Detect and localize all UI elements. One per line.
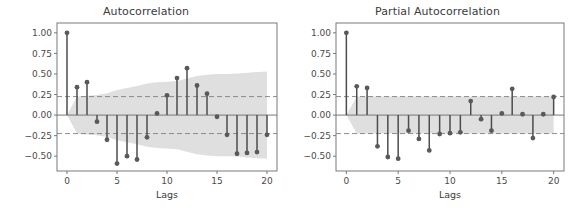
data-point-marker bbox=[215, 114, 220, 119]
y-tick-label: 0.00 bbox=[311, 110, 331, 120]
y-tick-label: −0.25 bbox=[24, 131, 52, 141]
data-point-marker bbox=[448, 131, 453, 136]
x-tick-label: 20 bbox=[261, 176, 273, 186]
x-tick-label: 10 bbox=[444, 176, 456, 186]
data-point-marker bbox=[499, 111, 504, 116]
x-tick-label: 5 bbox=[395, 176, 401, 186]
data-point-marker bbox=[375, 144, 380, 149]
data-point-marker bbox=[185, 66, 190, 71]
y-tick-label: −0.25 bbox=[303, 131, 331, 141]
autocorrelation-plot: −0.50−0.250.000.250.500.751.0005101520La… bbox=[0, 0, 292, 216]
data-point-marker bbox=[135, 157, 140, 162]
y-tick-label: 0.50 bbox=[32, 69, 52, 79]
data-point-marker bbox=[95, 119, 100, 124]
data-point-marker bbox=[541, 112, 546, 117]
data-point-marker bbox=[175, 76, 180, 81]
data-point-marker bbox=[551, 95, 556, 100]
data-point-marker bbox=[125, 154, 130, 159]
data-point-marker bbox=[265, 132, 270, 137]
data-point-marker bbox=[385, 155, 390, 160]
y-tick-label: 1.00 bbox=[311, 28, 331, 38]
x-tick-label: 0 bbox=[343, 176, 349, 186]
x-tick-label: 20 bbox=[548, 176, 560, 186]
data-point-marker bbox=[165, 93, 170, 98]
data-point-marker bbox=[468, 99, 473, 104]
y-tick-label: 0.75 bbox=[32, 49, 52, 59]
data-point-marker bbox=[344, 30, 349, 35]
data-point-marker bbox=[531, 136, 536, 141]
data-point-marker bbox=[115, 161, 120, 166]
x-axis-title: Lags bbox=[439, 189, 461, 200]
data-point-marker bbox=[245, 151, 250, 156]
data-point-marker bbox=[225, 132, 230, 137]
data-point-marker bbox=[417, 137, 422, 142]
data-point-marker bbox=[145, 135, 150, 140]
y-tick-label: 0.50 bbox=[311, 69, 331, 79]
y-tick-label: 0.00 bbox=[32, 110, 52, 120]
data-point-marker bbox=[205, 91, 210, 96]
data-point-marker bbox=[427, 148, 432, 153]
partial-autocorrelation-panel: Partial Autocorrelation −0.50−0.250.000.… bbox=[292, 0, 583, 216]
partial-autocorrelation-plot: −0.50−0.250.000.250.500.751.0005101520La… bbox=[292, 0, 583, 216]
y-tick-label: 0.25 bbox=[311, 90, 331, 100]
acf-pacf-figure: Autocorrelation −0.50−0.250.000.250.500.… bbox=[0, 0, 583, 216]
x-tick-label: 5 bbox=[114, 176, 120, 186]
data-point-marker bbox=[85, 80, 90, 85]
data-point-marker bbox=[365, 86, 370, 91]
data-point-marker bbox=[354, 84, 359, 89]
data-point-marker bbox=[235, 151, 240, 156]
data-point-marker bbox=[65, 30, 70, 35]
y-tick-label: −0.50 bbox=[24, 151, 52, 161]
x-tick-label: 0 bbox=[64, 176, 70, 186]
x-tick-label: 10 bbox=[161, 176, 173, 186]
data-point-marker bbox=[195, 83, 200, 88]
data-point-marker bbox=[520, 112, 525, 117]
y-tick-label: −0.50 bbox=[303, 151, 331, 161]
data-point-marker bbox=[489, 128, 494, 133]
data-point-marker bbox=[105, 137, 110, 142]
autocorrelation-panel: Autocorrelation −0.50−0.250.000.250.500.… bbox=[0, 0, 292, 216]
data-point-marker bbox=[255, 150, 260, 155]
data-point-marker bbox=[75, 85, 80, 90]
y-tick-label: 0.75 bbox=[311, 49, 331, 59]
x-tick-label: 15 bbox=[496, 176, 507, 186]
data-point-marker bbox=[155, 111, 160, 116]
data-point-marker bbox=[406, 128, 411, 133]
y-tick-label: 1.00 bbox=[32, 28, 52, 38]
x-tick-label: 15 bbox=[211, 176, 222, 186]
data-point-marker bbox=[396, 156, 401, 161]
data-point-marker bbox=[510, 86, 515, 91]
y-tick-label: 0.25 bbox=[32, 90, 52, 100]
data-point-marker bbox=[437, 132, 442, 137]
data-point-marker bbox=[458, 130, 463, 135]
x-axis-title: Lags bbox=[156, 189, 178, 200]
data-point-marker bbox=[479, 117, 484, 122]
